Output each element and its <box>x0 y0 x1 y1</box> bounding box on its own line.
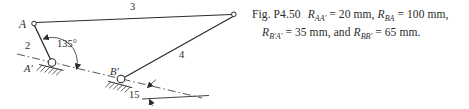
joint-a-circle <box>32 21 37 26</box>
figure-number: Fig. P4.50 <box>252 8 301 20</box>
linkage-diagram: A B A′ B′ 2 3 4 135° 15 <box>0 0 240 109</box>
dimension-r-aa: RAA′ = 20 mm, <box>308 8 378 20</box>
joint-a-label: A <box>18 18 27 30</box>
link-4-rocker <box>122 17 234 80</box>
dimension-r-bpap: RB′A′ = 35 mm, and <box>262 26 354 38</box>
angle-15-label: 15 <box>129 89 140 100</box>
ground-pivot-a-label: A′ <box>23 63 33 74</box>
caption-line-1: Fig. P4.50RAA′ = 20 mm, RBA = 100 mm, <box>252 5 468 23</box>
angle-135-label: 135° <box>57 38 77 49</box>
hatching-b <box>105 81 130 93</box>
joint-b-circle <box>232 12 237 17</box>
angle-15-arrow-lower <box>150 100 153 107</box>
angle-15-arrow-upper <box>148 80 157 88</box>
dimension-r-ba: RBA = 100 mm, <box>378 8 449 20</box>
figure-caption: Fig. P4.50RAA′ = 20 mm, RBA = 100 mm, RB… <box>252 5 468 41</box>
textbook-figure-p4-50: A B A′ B′ 2 3 4 135° 15 Fig. P4.50RAA′ =… <box>0 0 469 109</box>
link-2-crank <box>35 26 53 63</box>
dimension-r-bbp: RBB′ = 65 mm. <box>354 26 421 38</box>
ground-pivot-b-label: B′ <box>110 66 119 77</box>
link-2-label: 2 <box>25 40 30 51</box>
hatching-a <box>37 64 62 76</box>
pivot-pin-a <box>48 59 56 67</box>
link-3-label: 3 <box>130 1 135 12</box>
link-4-label: 4 <box>179 49 185 60</box>
link-3-coupler <box>36 15 232 23</box>
caption-line-2: RB′A′ = 35 mm, and RBB′ = 65 mm. <box>262 23 468 41</box>
